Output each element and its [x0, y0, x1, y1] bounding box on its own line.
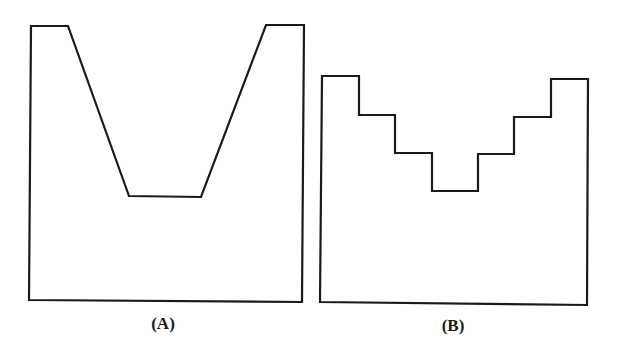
panel-a-trapezoid-notch-outline — [29, 25, 304, 302]
panel-b-label: (B) — [442, 316, 465, 336]
panel-a-label: (A) — [151, 314, 175, 334]
panel-b-stepped-notch-outline — [320, 76, 588, 305]
diagram-canvas — [0, 0, 617, 358]
